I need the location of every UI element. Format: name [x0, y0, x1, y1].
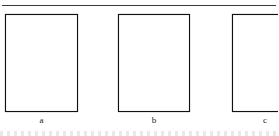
panel-b-caption: b	[152, 115, 157, 125]
panel-c-caption: c	[263, 115, 267, 125]
footer-partial-text-row	[0, 131, 278, 136]
panel-c: c	[233, 15, 279, 126]
figure-root: a b	[0, 0, 278, 136]
panel-b-frame-outline	[119, 15, 190, 112]
panel-a-frame-outline	[6, 15, 78, 112]
panel-c-frame-outline	[233, 15, 279, 112]
figure-canvas: a b	[0, 0, 278, 136]
panel-b: b	[119, 15, 190, 126]
panel-a-caption: a	[40, 115, 44, 125]
panel-a: a	[6, 15, 78, 126]
